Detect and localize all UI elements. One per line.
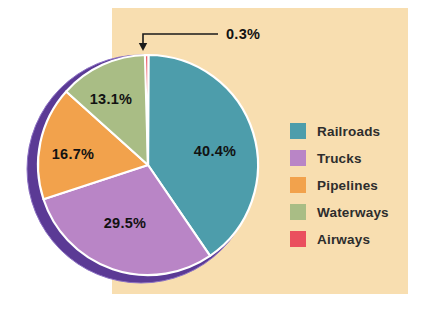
legend-label-airways: Airways bbox=[317, 232, 370, 247]
legend-item-pipelines: Pipelines bbox=[290, 177, 389, 193]
slice-label-railroads: 40.4% bbox=[194, 143, 237, 159]
legend-item-airways: Airways bbox=[290, 231, 389, 247]
slice-label-pipelines: 16.7% bbox=[52, 146, 95, 162]
legend-label-pipelines: Pipelines bbox=[317, 178, 378, 193]
legend-item-trucks: Trucks bbox=[290, 150, 389, 166]
slice-label-airways-callout: 0.3% bbox=[226, 26, 260, 42]
waterways-swatch-icon bbox=[290, 204, 306, 220]
railroads-swatch-icon bbox=[290, 123, 306, 139]
legend-label-waterways: Waterways bbox=[317, 205, 389, 220]
legend-label-railroads: Railroads bbox=[317, 124, 380, 139]
legend: Railroads Trucks Pipelines Waterways Air… bbox=[290, 123, 389, 247]
legend-item-railroads: Railroads bbox=[290, 123, 389, 139]
slice-label-trucks: 29.5% bbox=[104, 215, 147, 231]
legend-item-waterways: Waterways bbox=[290, 204, 389, 220]
pipelines-swatch-icon bbox=[290, 177, 306, 193]
callout-arrow bbox=[139, 34, 218, 51]
figure-canvas: 40.4% 29.5% 16.7% 13.1% 0.3% Railroads T… bbox=[0, 0, 428, 315]
arrowhead-icon bbox=[139, 43, 147, 51]
pie-slices bbox=[38, 55, 258, 275]
trucks-swatch-icon bbox=[290, 150, 306, 166]
legend-label-trucks: Trucks bbox=[317, 151, 362, 166]
slice-label-waterways: 13.1% bbox=[90, 91, 133, 107]
airways-swatch-icon bbox=[290, 231, 306, 247]
